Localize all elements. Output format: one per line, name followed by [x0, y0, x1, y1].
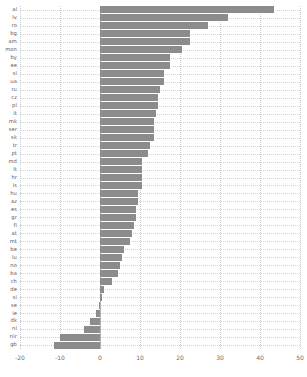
- y-axis-label-gr: gr: [11, 215, 17, 220]
- gridline-vertical-20: [180, 6, 181, 349]
- y-axis-label-ro: ro: [12, 23, 17, 28]
- y-axis-label-by: by: [10, 55, 17, 60]
- y-axis-label-no: no: [10, 263, 17, 268]
- y-axis-label-hu: hu: [10, 191, 17, 196]
- x-axis-tick-labels: -20-1001020304050: [20, 352, 300, 368]
- gridline-vertical--20: [20, 6, 21, 349]
- bar-ser: [100, 126, 154, 133]
- gridline-horizontal: [20, 122, 300, 123]
- y-axis-label-lt: lt: [13, 167, 17, 172]
- bar-cz: [100, 94, 158, 101]
- y-axis-label-mt: mt: [10, 239, 17, 244]
- y-axis-label-lv: lv: [12, 15, 17, 20]
- bar-ch: [100, 278, 112, 285]
- y-axis-label-ua: ua: [10, 79, 17, 84]
- bar-ie: [96, 310, 100, 317]
- y-axis-label-se: se: [11, 303, 17, 308]
- bar-tr: [100, 142, 150, 149]
- bar-gb: [54, 342, 100, 349]
- y-axis-label-ba: ba: [10, 271, 17, 276]
- gridline-horizontal: [20, 138, 300, 139]
- bar-gr: [100, 214, 136, 221]
- gridline-horizontal: [20, 154, 300, 155]
- bar-md: [100, 158, 142, 165]
- bar-chart: allvrobgammonbyeesiuaruczplitmksersktrpt…: [0, 0, 307, 377]
- y-axis-label-hr: hr: [11, 175, 17, 180]
- x-axis-tick-30: 30: [216, 355, 224, 361]
- bar-mt: [100, 238, 130, 245]
- bar-ee: [100, 62, 170, 69]
- gridline-horizontal: [20, 130, 300, 131]
- gridline-horizontal: [20, 98, 300, 99]
- y-axis-label-de: de: [10, 287, 17, 292]
- y-axis-label-nir: nir: [10, 334, 17, 339]
- gridline-horizontal: [20, 273, 300, 274]
- bar-nl: [84, 326, 100, 333]
- y-axis-category-labels: allvrobgammonbyeesiuaruczplitmksersktrpt…: [0, 6, 17, 349]
- y-axis-label-si2: si: [13, 295, 17, 300]
- bar-az: [100, 198, 138, 205]
- gridline-vertical--10: [60, 6, 61, 349]
- bar-hu: [100, 190, 138, 197]
- bar-de: [100, 286, 104, 293]
- bar-am: [100, 38, 190, 45]
- y-axis-label-nl: nl: [12, 326, 17, 331]
- bar-at: [100, 230, 132, 237]
- x-axis-tick-50: 50: [296, 355, 304, 361]
- bar-is: [100, 182, 142, 189]
- y-axis-label-al: al: [12, 7, 17, 12]
- gridline-horizontal: [20, 178, 300, 179]
- gridline-horizontal: [20, 209, 300, 210]
- y-axis-label-fi: fi: [14, 223, 17, 228]
- bar-by: [100, 54, 170, 61]
- gridline-vertical-50: [300, 6, 301, 349]
- y-axis-label-be: be: [10, 247, 17, 252]
- gridline-horizontal: [20, 249, 300, 250]
- gridline-horizontal: [20, 170, 300, 171]
- y-axis-label-az: az: [11, 199, 17, 204]
- bar-sk: [100, 134, 154, 141]
- gridline-horizontal: [20, 193, 300, 194]
- gridline-vertical-30: [220, 6, 221, 349]
- y-axis-label-lu: lu: [12, 255, 17, 260]
- bar-no: [100, 262, 120, 269]
- y-axis-label-cz: cz: [11, 95, 17, 100]
- gridline-horizontal: [20, 313, 300, 314]
- gridline-horizontal: [20, 257, 300, 258]
- bar-hr: [100, 174, 142, 181]
- bar-dk: [90, 318, 100, 325]
- gridline-horizontal: [20, 241, 300, 242]
- bar-ba: [100, 270, 118, 277]
- gridline-horizontal: [20, 289, 300, 290]
- y-axis-label-ch: ch: [11, 279, 17, 284]
- bar-bg: [100, 30, 190, 37]
- y-axis-label-am: am: [9, 39, 17, 44]
- x-axis-tick-20: 20: [176, 355, 184, 361]
- y-axis-label-si: si: [13, 71, 17, 76]
- gridline-horizontal: [20, 305, 300, 306]
- bar-lt: [100, 166, 142, 173]
- bar-be: [100, 246, 124, 253]
- gridline-horizontal: [20, 114, 300, 115]
- gridline-horizontal: [20, 90, 300, 91]
- x-axis-tick--20: -20: [15, 355, 25, 361]
- y-axis-label-bg: bg: [10, 31, 17, 36]
- bar-pl: [100, 102, 158, 109]
- y-axis-label-ee: ee: [10, 63, 17, 68]
- gridline-vertical-40: [260, 6, 261, 349]
- gridline-horizontal: [20, 225, 300, 226]
- y-axis-label-dk: dk: [11, 318, 18, 323]
- gridline-horizontal: [20, 321, 300, 322]
- bar-mk: [100, 118, 154, 125]
- y-axis-label-tr: tr: [13, 143, 17, 148]
- y-axis-label-md: md: [8, 159, 17, 164]
- y-axis-label-gb: gb: [10, 342, 17, 347]
- bar-it: [100, 110, 156, 117]
- gridline-horizontal: [20, 329, 300, 330]
- x-axis-tick-40: 40: [256, 355, 264, 361]
- y-axis-label-ru: ru: [11, 87, 17, 92]
- y-axis-label-pl: pl: [12, 103, 17, 108]
- y-axis-label-pt: pt: [11, 151, 17, 156]
- gridline-horizontal: [20, 106, 300, 107]
- y-axis-label-ie: ie: [12, 311, 17, 316]
